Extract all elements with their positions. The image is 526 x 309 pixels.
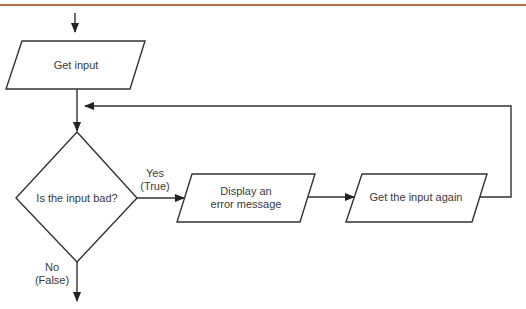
no-false-label: (False) xyxy=(35,274,69,286)
node-decision: Is the input bad? xyxy=(16,132,137,262)
yes-true-label: (True) xyxy=(140,180,170,192)
display-error-label-2: error message xyxy=(211,198,282,210)
flowchart: Get input Is the input bad? Yes (True) D… xyxy=(0,0,526,309)
top-rule xyxy=(0,4,526,6)
node-display-error: Display an error message xyxy=(177,174,315,222)
decision-label: Is the input bad? xyxy=(36,192,117,204)
node-get-again: Get the input again xyxy=(346,174,487,222)
get-again-label: Get the input again xyxy=(370,191,463,203)
no-label: No xyxy=(45,261,59,273)
display-error-label-1: Display an xyxy=(220,185,271,197)
yes-label: Yes xyxy=(146,167,164,179)
node-get-input: Get input xyxy=(6,41,145,89)
get-input-label: Get input xyxy=(54,59,99,71)
